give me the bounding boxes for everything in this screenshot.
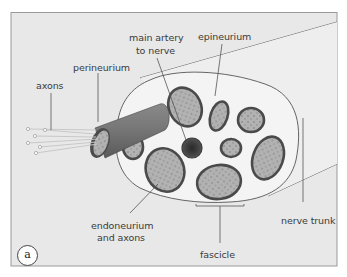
label-main-artery-line1: main artery [129,32,183,43]
label-endoneurium-line1: endoneurium [91,220,153,231]
main-artery [182,138,202,158]
label-nerve-trunk: nerve trunk [281,215,335,226]
label-epineurium: epineurium [198,31,251,42]
label-endoneurium-line2: and axons [97,232,145,243]
label-main-artery-line2: to nerve [136,45,175,56]
label-perineurium: perineurium [73,62,130,73]
label-axons: axons [36,80,63,91]
panel-label: a [17,245,38,266]
label-fascicle: fascicle [200,249,235,260]
